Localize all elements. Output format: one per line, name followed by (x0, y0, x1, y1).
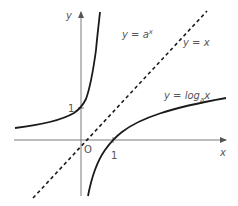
logarithm-curve (88, 98, 226, 196)
function-graph-diagram: y x O 1 1 y = ax y = x y = logax (0, 0, 238, 206)
x-tick-label: 1 (111, 150, 117, 161)
exponential-label: y = ax (121, 28, 154, 40)
origin-label: O (84, 144, 92, 155)
x-axis-label: x (219, 147, 226, 158)
identity-line (33, 11, 207, 198)
identity-label: y = x (182, 37, 210, 48)
exponential-curve (15, 12, 100, 128)
y-tick-label: 1 (68, 103, 74, 114)
y-axis-label: y (65, 10, 73, 21)
logarithm-label: y = logax (163, 90, 210, 104)
